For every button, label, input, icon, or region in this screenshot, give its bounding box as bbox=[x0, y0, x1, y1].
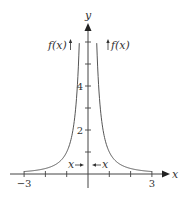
right-arrow-head bbox=[80, 163, 84, 166]
y-axis-label: y bbox=[84, 9, 92, 22]
y-tick-label: 2 bbox=[77, 125, 83, 136]
left-arrow-head bbox=[92, 163, 96, 166]
x-axis-arrow-icon bbox=[162, 171, 170, 178]
chart: x y −3324 f(x) f(x) x x bbox=[0, 0, 188, 205]
x-axis-label: x bbox=[172, 168, 179, 181]
curve-left-branch bbox=[24, 43, 79, 171]
annotation-right-fx: f(x) bbox=[110, 39, 130, 52]
annotation-right-x: x bbox=[102, 158, 109, 171]
annotation-left-fx: f(x) bbox=[47, 39, 67, 52]
up-arrow-left-head bbox=[69, 39, 72, 43]
y-axis-arrow-icon bbox=[85, 23, 92, 31]
up-arrow-right-head bbox=[106, 39, 109, 43]
x-tick-label: −3 bbox=[17, 178, 32, 189]
curve-right-branch bbox=[97, 43, 152, 171]
x-tick-label: 3 bbox=[149, 178, 155, 189]
annotation-left-x: x bbox=[68, 158, 75, 171]
axes: x y bbox=[10, 9, 179, 188]
